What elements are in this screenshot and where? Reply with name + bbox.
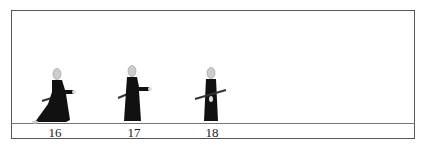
figure-16-icon — [30, 66, 80, 124]
step-label-17: 17 — [119, 125, 149, 141]
step-label-18: 18 — [197, 125, 227, 141]
figure-17-icon — [115, 63, 155, 124]
step-label-16: 16 — [40, 125, 70, 141]
figure-18-icon — [192, 65, 232, 124]
